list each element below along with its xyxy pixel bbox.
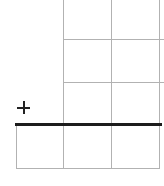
thick-border-line <box>15 123 162 126</box>
spreadsheet-grid-canvas[interactable] <box>0 0 164 186</box>
plus-crosshair-cursor-icon <box>17 101 30 114</box>
crosshair-vertical-bar <box>23 101 25 114</box>
gridline-vertical-2 <box>111 0 112 169</box>
gridline-vertical-left-edge <box>16 124 17 169</box>
gridline-horizontal-2 <box>63 82 164 83</box>
gridline-vertical-1 <box>63 0 64 169</box>
gridline-horizontal-1 <box>63 39 164 40</box>
gridline-vertical-3 <box>159 0 160 169</box>
gridline-horizontal-bottom <box>16 168 160 169</box>
